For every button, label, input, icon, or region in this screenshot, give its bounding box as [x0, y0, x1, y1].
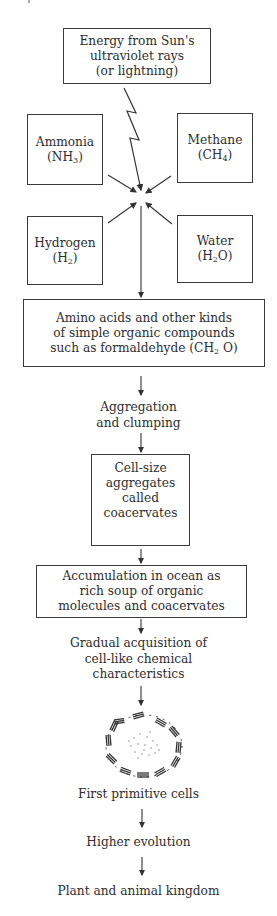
reactant-formula: (H2O) — [197, 249, 232, 264]
acquisition-line-2: cell-like chemical — [0, 652, 277, 668]
acquisition-line-3: characteristics — [0, 667, 277, 683]
energy-line-3: (or lightning) — [96, 64, 178, 79]
reactant-formula: (NH3) — [47, 150, 83, 165]
aggregation-line-2: and clumping — [0, 416, 277, 432]
ocean-line-2: rich soup of organic — [80, 584, 204, 599]
ammonia-box: Ammonia (NH3) — [27, 114, 103, 185]
organic-line-2: of simple organic compounds — [53, 326, 235, 341]
ocean-line-3: molecules and coacervates — [58, 599, 225, 614]
energy-line-2: ultraviolet rays — [90, 49, 184, 64]
lightning-bolt-icon — [124, 88, 141, 190]
aggregation-line-1: Aggregation — [0, 400, 277, 416]
energy-source-box: Energy from Sun's ultraviolet rays (or l… — [63, 28, 211, 84]
higher-evolution-step: Higher evolution — [0, 835, 277, 851]
ocean-line-1: Accumulation in ocean as — [62, 569, 220, 584]
reactant-formula: (H2) — [52, 251, 77, 266]
water-box: Water (H2O) — [177, 215, 253, 283]
primitive-cell-icon — [106, 712, 182, 777]
acquisition-line-1: Gradual acquisition of — [0, 636, 277, 652]
reactant-name: Water — [197, 234, 234, 249]
organic-line-3: such as formaldehyde (CH2 O) — [50, 341, 238, 356]
reactant-name: Ammonia — [36, 135, 94, 150]
arrow-water — [146, 203, 172, 224]
energy-line-1: Energy from Sun's — [79, 34, 194, 49]
arrow-methane — [146, 176, 171, 193]
methane-box: Methane (CH4) — [177, 113, 253, 183]
reactant-formula: (CH4) — [198, 148, 233, 163]
aggregation-step: Aggregation and clumping — [0, 400, 277, 431]
first-cells-step: First primitive cells — [0, 787, 277, 803]
reactant-name: Hydrogen — [34, 236, 95, 251]
coacervate-line-1: Cell-size — [114, 461, 166, 476]
coacervate-line-2: aggregates — [106, 476, 175, 491]
coacervate-line-3: called — [122, 491, 159, 506]
organic-line-1: Amino acids and other kinds — [56, 311, 232, 326]
arrow-ammonia — [108, 175, 136, 192]
acquisition-step: Gradual acquisition of cell-like chemica… — [0, 636, 277, 683]
reactant-name: Methane — [188, 133, 243, 148]
coacervate-line-4: coacervates — [104, 506, 178, 521]
arrow-hydrogen — [108, 203, 136, 223]
kingdom-step: Plant and animal kingdom — [0, 884, 277, 900]
coacervates-box: Cell-size aggregates called coacervates — [91, 454, 190, 546]
hydrogen-box: Hydrogen (H2) — [27, 216, 103, 285]
ocean-soup-box: Accumulation in ocean as rich soup of or… — [36, 565, 247, 618]
organic-compounds-box: Amino acids and other kinds of simple or… — [23, 299, 265, 367]
